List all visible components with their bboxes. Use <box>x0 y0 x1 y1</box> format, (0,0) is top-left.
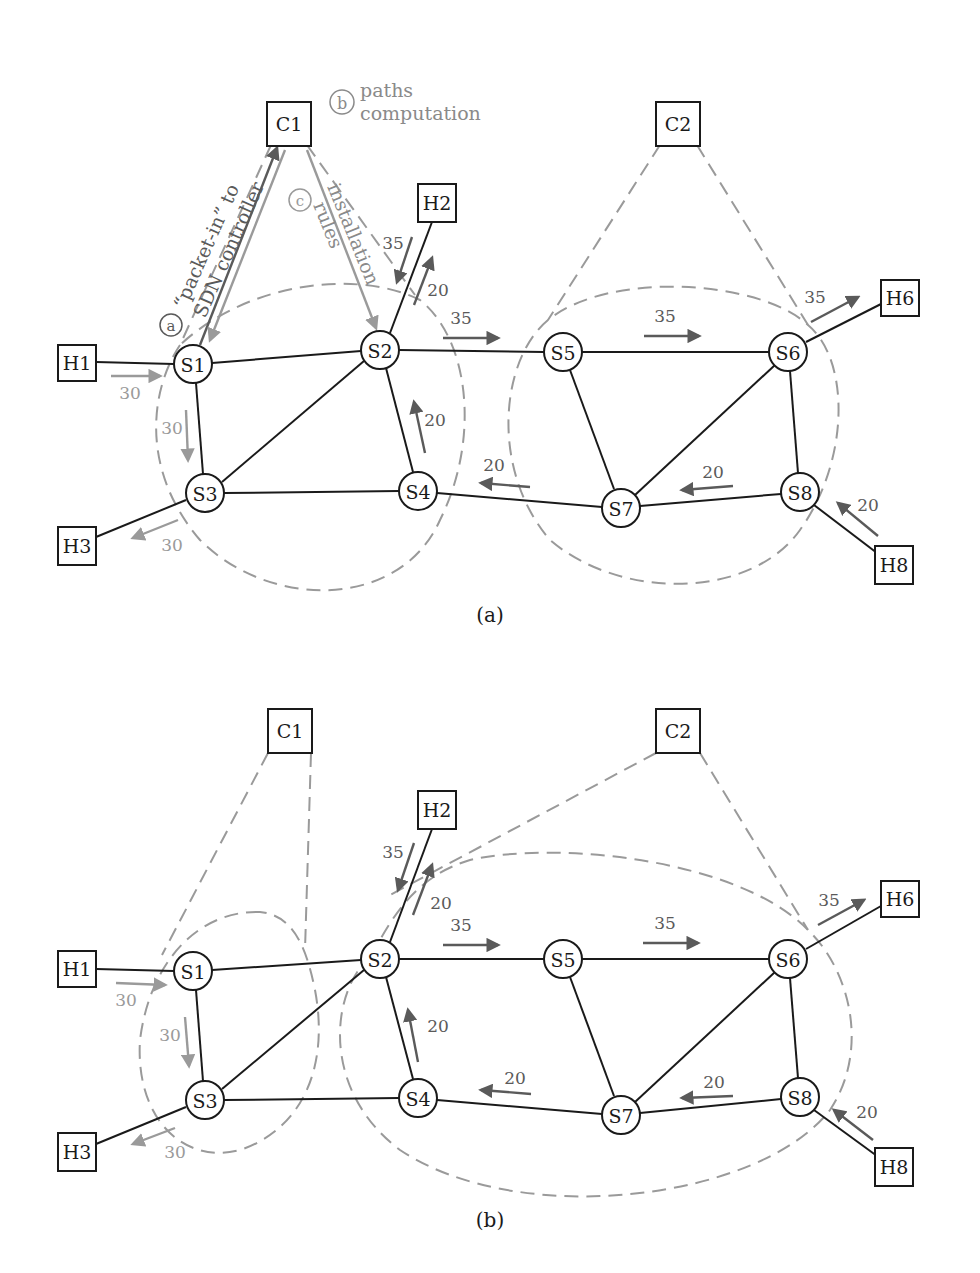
svg-text:S7: S7 <box>608 498 633 520</box>
host-h6-b[interactable]: H6 <box>881 881 919 917</box>
svg-text:S3: S3 <box>192 1090 217 1112</box>
caption-a: (a) <box>476 603 504 627</box>
svg-text:35: 35 <box>450 915 472 935</box>
switch-s7-a[interactable]: S7 <box>602 489 640 527</box>
svg-text:S7: S7 <box>608 1105 633 1127</box>
svg-text:35: 35 <box>382 842 404 862</box>
switch-s3-a[interactable]: S3 <box>186 474 224 512</box>
host-h2-b[interactable]: H2 <box>418 791 456 829</box>
svg-text:30: 30 <box>119 383 141 403</box>
host-h6-a[interactable]: H6 <box>881 280 919 316</box>
switch-s5-a[interactable]: S5 <box>544 333 582 371</box>
switch-s2-b[interactable]: S2 <box>361 940 399 978</box>
svg-text:35: 35 <box>450 308 472 328</box>
svg-text:20: 20 <box>857 495 879 515</box>
svg-text:20: 20 <box>483 455 505 475</box>
svg-text:H6: H6 <box>886 888 915 910</box>
switch-s1-a[interactable]: S1 <box>174 345 212 383</box>
controller-c2-a[interactable]: C2 <box>656 102 700 146</box>
svg-text:S5: S5 <box>550 342 575 364</box>
svg-text:S1: S1 <box>180 961 205 983</box>
svg-text:S3: S3 <box>192 483 217 505</box>
svg-text:C2: C2 <box>665 720 692 742</box>
svg-text:20: 20 <box>703 1072 725 1092</box>
svg-text:35: 35 <box>804 287 826 307</box>
svg-text:S2: S2 <box>367 340 392 362</box>
svg-text:S8: S8 <box>787 482 812 504</box>
svg-text:S4: S4 <box>405 481 430 503</box>
svg-text:H1: H1 <box>63 352 92 374</box>
svg-text:30: 30 <box>161 418 183 438</box>
svg-text:35: 35 <box>654 913 676 933</box>
svg-text:a: a <box>167 317 176 335</box>
svg-text:C1: C1 <box>276 113 303 135</box>
switch-s7-b[interactable]: S7 <box>602 1096 640 1134</box>
host-h8-b[interactable]: H8 <box>875 1148 913 1186</box>
svg-text:H2: H2 <box>423 192 452 214</box>
panel-b: 30 30 30 35 20 35 35 35 20 20 20 20 <box>58 709 919 1232</box>
switch-s8-b[interactable]: S8 <box>781 1078 819 1116</box>
svg-text:computation: computation <box>360 102 481 124</box>
controller-c1-a[interactable]: C1 <box>267 102 311 146</box>
svg-text:S1: S1 <box>180 354 205 376</box>
svg-text:30: 30 <box>115 990 137 1010</box>
svg-text:20: 20 <box>856 1102 878 1122</box>
switch-s2-a[interactable]: S2 <box>361 331 399 369</box>
svg-text:35: 35 <box>818 890 840 910</box>
svg-text:20: 20 <box>430 893 452 913</box>
svg-text:20: 20 <box>702 462 724 482</box>
svg-text:C1: C1 <box>277 720 304 742</box>
svg-text:S4: S4 <box>405 1088 430 1110</box>
svg-text:H8: H8 <box>880 1156 909 1178</box>
switch-s6-a[interactable]: S6 <box>769 333 807 371</box>
svg-text:S6: S6 <box>775 342 800 364</box>
svg-text:20: 20 <box>504 1068 526 1088</box>
svg-text:30: 30 <box>159 1025 181 1045</box>
domain-c1-a <box>156 284 465 590</box>
svg-text:c: c <box>296 192 304 210</box>
host-h8-a[interactable]: H8 <box>875 546 913 584</box>
flows-b: 30 30 30 35 20 35 35 35 20 20 20 20 <box>115 842 878 1162</box>
domain-c2-a <box>508 287 838 584</box>
switch-s1-b[interactable]: S1 <box>174 952 212 990</box>
controller-c1-b[interactable]: C1 <box>268 709 312 753</box>
switch-s4-b[interactable]: S4 <box>399 1079 437 1117</box>
switch-s5-b[interactable]: S5 <box>544 940 582 978</box>
svg-text:H3: H3 <box>63 535 92 557</box>
host-h2-a[interactable]: H2 <box>418 184 456 222</box>
svg-text:30: 30 <box>161 535 183 555</box>
host-h3-a[interactable]: H3 <box>58 527 96 565</box>
host-h1-a[interactable]: H1 <box>58 345 96 381</box>
caption-b: (b) <box>476 1208 504 1232</box>
controller-c2-b[interactable]: C2 <box>656 709 700 753</box>
host-h1-b[interactable]: H1 <box>58 951 96 987</box>
svg-text:20: 20 <box>427 1016 449 1036</box>
svg-text:S5: S5 <box>550 949 575 971</box>
svg-text:H2: H2 <box>423 799 452 821</box>
svg-text:20: 20 <box>424 410 446 430</box>
svg-text:b: b <box>337 94 347 113</box>
svg-text:H6: H6 <box>886 287 915 309</box>
host-h3-b[interactable]: H3 <box>58 1133 96 1171</box>
svg-text:30: 30 <box>164 1142 186 1162</box>
switch-s6-b[interactable]: S6 <box>769 940 807 978</box>
svg-text:20: 20 <box>427 280 449 300</box>
svg-text:C2: C2 <box>665 113 692 135</box>
svg-text:S2: S2 <box>367 949 392 971</box>
svg-text:H8: H8 <box>880 554 909 576</box>
svg-text:35: 35 <box>654 306 676 326</box>
switch-s8-a[interactable]: S8 <box>781 473 819 511</box>
svg-text:H3: H3 <box>63 1141 92 1163</box>
annotation-b: b paths computation <box>330 79 481 124</box>
svg-text:S8: S8 <box>787 1087 812 1109</box>
control-channels-b <box>162 753 808 955</box>
switch-s4-a[interactable]: S4 <box>399 472 437 510</box>
sdn-diagram: a “packet-in” to SDN controller b paths … <box>0 0 980 1273</box>
panel-a: a “packet-in” to SDN controller b paths … <box>58 79 919 627</box>
svg-text:H1: H1 <box>63 958 92 980</box>
svg-text:S6: S6 <box>775 949 800 971</box>
annotation-c: c rules installation <box>289 180 384 296</box>
svg-text:paths: paths <box>360 79 413 101</box>
svg-text:35: 35 <box>382 233 404 253</box>
switch-s3-b[interactable]: S3 <box>186 1081 224 1119</box>
